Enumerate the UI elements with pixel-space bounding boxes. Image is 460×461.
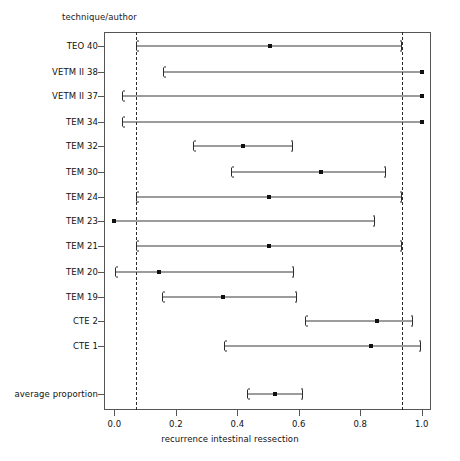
row-tick-13	[98, 394, 104, 395]
row-label-vetm-ii-38: VETM II 38	[52, 67, 98, 77]
row-tick-8	[98, 246, 104, 247]
reference-line-1	[402, 32, 403, 410]
confidence-interval-line-12	[224, 346, 420, 347]
interval-cap-high-10	[296, 292, 297, 301]
point-estimate-marker-2	[420, 94, 424, 98]
interval-cap-high-9	[293, 267, 294, 276]
x-tick-4	[360, 410, 361, 416]
point-estimate-marker-11	[375, 319, 379, 323]
x-tick-0	[114, 410, 115, 416]
row-label-tem-24: TEM 24	[66, 192, 98, 202]
point-estimate-marker-9	[157, 270, 161, 274]
interval-cap-low-1	[163, 67, 164, 76]
point-estimate-marker-4	[241, 144, 245, 148]
row-label-tem-20: TEM 20	[66, 267, 98, 277]
row-tick-9	[98, 272, 104, 273]
x-tick-label-1: 0.2	[169, 419, 183, 429]
y-axis-title: technique/author	[62, 12, 137, 22]
interval-cap-low-11	[305, 317, 306, 326]
row-tick-5	[98, 172, 104, 173]
interval-cap-low-5	[231, 167, 232, 176]
point-estimate-marker-7	[112, 219, 116, 223]
row-tick-1	[98, 72, 104, 73]
row-label-cte-1: CTE 1	[73, 341, 98, 351]
row-tick-10	[98, 297, 104, 298]
row-label-vetm-ii-37: VETM II 37	[52, 91, 98, 101]
row-label-tem-21: TEM 21	[66, 241, 98, 251]
confidence-interval-line-3	[122, 122, 422, 123]
point-estimate-marker-0	[268, 44, 272, 48]
row-label-teo-40: TEO 40	[67, 41, 98, 51]
interval-cap-low-2	[122, 92, 123, 101]
confidence-interval-line-11	[305, 321, 414, 322]
row-tick-11	[98, 321, 104, 322]
point-estimate-marker-1	[420, 70, 424, 74]
row-label-tem-30: TEM 30	[66, 167, 98, 177]
x-tick-1	[176, 410, 177, 416]
x-tick-5	[422, 410, 423, 416]
confidence-interval-line-10	[162, 296, 297, 297]
x-tick-label-0: 0.0	[108, 419, 122, 429]
row-label-cte-2: CTE 2	[73, 316, 98, 326]
confidence-interval-line-9	[115, 271, 295, 272]
row-label-average-proportion: average proportion	[14, 389, 98, 399]
interval-cap-high-12	[420, 342, 421, 351]
interval-cap-low-3	[122, 118, 123, 127]
interval-cap-low-12	[224, 342, 225, 351]
row-tick-3	[98, 122, 104, 123]
point-estimate-marker-3	[420, 120, 424, 124]
interval-cap-low-13	[247, 390, 248, 399]
interval-cap-high-0	[401, 42, 402, 51]
interval-cap-high-11	[412, 317, 413, 326]
x-axis-title: recurrence intestinal ressection	[0, 434, 460, 444]
row-label-tem-23: TEM 23	[66, 216, 98, 226]
point-estimate-marker-5	[319, 170, 323, 174]
x-tick-2	[237, 410, 238, 416]
row-tick-2	[98, 96, 104, 97]
point-estimate-marker-6	[267, 195, 271, 199]
row-label-tem-19: TEM 19	[66, 292, 98, 302]
forest-plot-figure: technique/author TEO 40VETM II 38VETM II…	[0, 0, 460, 461]
row-tick-0	[98, 46, 104, 47]
x-tick-label-5: 1.0	[415, 419, 429, 429]
x-tick-label-4: 0.8	[353, 419, 367, 429]
row-tick-7	[98, 221, 104, 222]
interval-cap-high-8	[401, 242, 402, 251]
x-tick-label-2: 0.4	[231, 419, 245, 429]
confidence-interval-line-5	[231, 171, 386, 172]
interval-cap-high-7	[374, 217, 375, 226]
interval-cap-high-5	[385, 167, 386, 176]
row-label-tem-32: TEM 32	[66, 141, 98, 151]
confidence-interval-line-7	[114, 221, 374, 222]
point-estimate-marker-8	[267, 244, 271, 248]
point-estimate-marker-10	[221, 295, 225, 299]
row-label-tem-34: TEM 34	[66, 117, 98, 127]
confidence-interval-line-1	[163, 71, 422, 72]
x-tick-3	[299, 410, 300, 416]
interval-cap-low-9	[115, 267, 116, 276]
confidence-interval-line-2	[122, 96, 421, 97]
interval-cap-low-8	[136, 242, 137, 251]
row-tick-12	[98, 346, 104, 347]
interval-cap-high-13	[302, 390, 303, 399]
interval-cap-high-4	[292, 142, 293, 151]
interval-cap-low-6	[136, 192, 137, 201]
interval-cap-low-0	[136, 42, 137, 51]
x-tick-label-3: 0.6	[292, 419, 306, 429]
point-estimate-marker-12	[369, 344, 373, 348]
interval-cap-low-10	[162, 292, 163, 301]
interval-cap-low-4	[193, 142, 194, 151]
row-tick-6	[98, 197, 104, 198]
row-tick-4	[98, 146, 104, 147]
point-estimate-marker-13	[273, 392, 277, 396]
interval-cap-high-6	[401, 192, 402, 201]
